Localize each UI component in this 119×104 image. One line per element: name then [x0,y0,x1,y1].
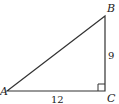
side-label-bc: 9 [108,50,114,61]
side-label-ac: 12 [51,94,64,104]
triangle-diagram: A B C 9 12 [0,0,119,104]
triangle-abc [7,16,105,91]
vertex-label-a: A [0,85,8,98]
vertex-label-b: B [106,2,115,15]
right-angle-marker [98,84,105,91]
vertex-label-c: C [107,92,116,104]
